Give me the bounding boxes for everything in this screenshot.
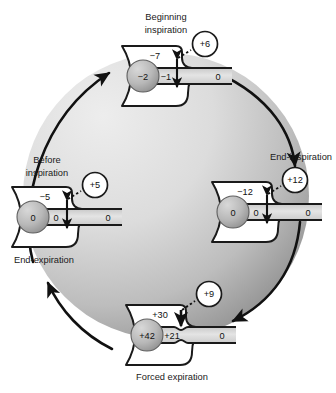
intrapleural-pressure: −7 xyxy=(150,51,160,61)
intrapleural-pressure: −12 xyxy=(237,187,253,197)
badge-value: +12 xyxy=(287,175,303,185)
mouth-pressure: 0 xyxy=(219,331,224,341)
stage-label-end-expiration: End-expiration xyxy=(14,255,74,265)
badge-value: +5 xyxy=(90,180,100,190)
airway-pressure: +21 xyxy=(164,331,180,341)
alveolar-pressure: +42 xyxy=(139,331,155,341)
airway-pressure: 0 xyxy=(253,208,258,218)
alveolar-pressure: −2 xyxy=(138,72,148,82)
mouth-pressure: 0 xyxy=(105,213,110,223)
badge-value: +9 xyxy=(204,289,214,299)
stage-label-end-inspiration: End-inspiration xyxy=(270,152,332,162)
figure-canvas: +6 −7 −2 −1 0 Beginning inspiration +5 −… xyxy=(0,0,336,393)
alveolar-pressure: 0 xyxy=(230,208,235,218)
mouth-pressure: 0 xyxy=(305,208,310,218)
mouth-pressure: 0 xyxy=(215,72,220,82)
stage-label-line2: inspiration xyxy=(145,25,187,35)
airway-pressure: −1 xyxy=(161,72,171,82)
stage-label-line1: Beginning xyxy=(145,12,186,22)
airway-pressure: 0 xyxy=(53,213,58,223)
alveolar-pressure: 0 xyxy=(30,213,35,223)
stage-label-forced-expiration: Forced expiration xyxy=(136,372,208,382)
intrapleural-pressure: +30 xyxy=(152,310,168,320)
stage-label-line1: Before xyxy=(33,155,60,165)
intrapleural-pressure: −5 xyxy=(40,192,50,202)
stage-label-line2: inspiration xyxy=(26,168,68,178)
badge-value: +6 xyxy=(200,39,210,49)
